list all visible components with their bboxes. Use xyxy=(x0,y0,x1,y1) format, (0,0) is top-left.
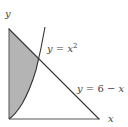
parabola-label: y = x2 xyxy=(46,42,78,54)
diagram-canvas: y x y = x2 y = 6 − x xyxy=(0,0,128,127)
line-label: y = 6 − x xyxy=(76,83,125,94)
x-axis-label: x xyxy=(108,113,114,124)
y-axis-label: y xyxy=(4,8,11,19)
